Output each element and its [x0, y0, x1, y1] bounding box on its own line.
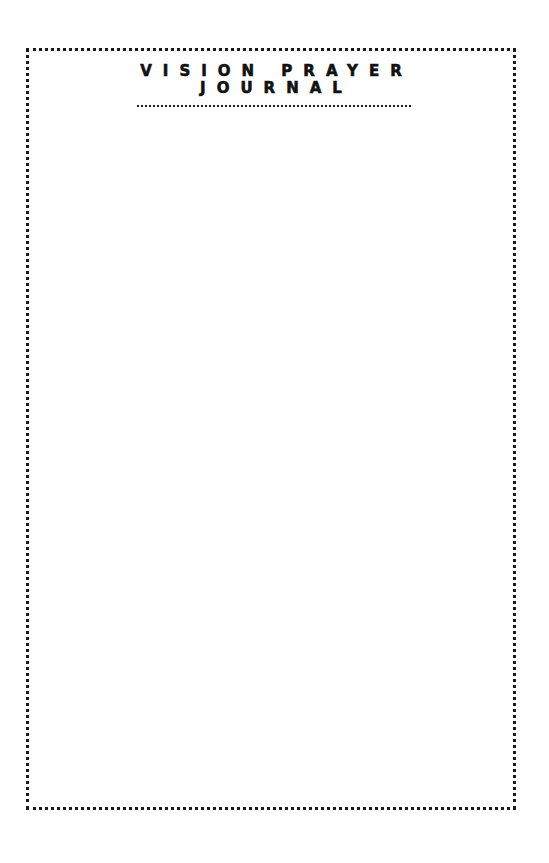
- blank-writing-area: [39, 121, 503, 797]
- journal-page-border: VISION PRAYER JOURNAL: [26, 48, 516, 810]
- title-line-2: JOURNAL: [29, 80, 513, 97]
- title-line-1: VISION PRAYER: [29, 63, 513, 80]
- title-dotted-divider: [137, 105, 411, 107]
- journal-title: VISION PRAYER JOURNAL: [29, 63, 513, 97]
